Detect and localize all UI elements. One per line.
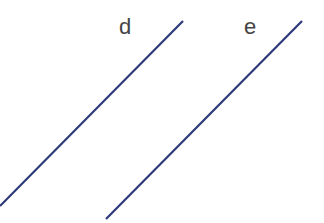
diagram-canvas: d e — [0, 0, 324, 223]
label-e: e — [244, 14, 256, 39]
line-d — [0, 21, 183, 206]
label-d: d — [119, 14, 131, 39]
line-e — [106, 21, 302, 219]
